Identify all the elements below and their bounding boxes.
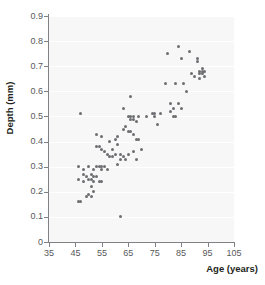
data-point: [100, 168, 103, 171]
data-point: [119, 158, 122, 161]
data-point: [114, 153, 117, 156]
gridline: [49, 66, 234, 67]
data-point: [137, 115, 140, 118]
x-tick-label: 95: [196, 249, 220, 258]
x-tick-mark: [155, 243, 156, 247]
y-tick-label: 0.3: [13, 162, 43, 171]
data-point: [198, 77, 201, 80]
data-point: [92, 190, 95, 193]
x-tick-mark: [208, 243, 209, 247]
data-point: [159, 112, 162, 115]
data-point: [177, 45, 180, 48]
data-point: [140, 148, 143, 151]
data-point: [82, 168, 85, 171]
data-point: [127, 153, 130, 156]
data-point: [100, 135, 103, 138]
y-tick-mark: [44, 167, 48, 168]
data-point: [90, 185, 93, 188]
x-tick-mark: [75, 243, 76, 247]
data-point: [203, 70, 206, 73]
y-tick-mark: [44, 91, 48, 92]
x-tick-mark: [181, 243, 182, 247]
data-point: [193, 75, 196, 78]
data-point: [100, 180, 103, 183]
data-point: [77, 165, 80, 168]
y-tick-mark: [44, 217, 48, 218]
y-tick-mark: [44, 192, 48, 193]
y-tick-mark: [44, 16, 48, 17]
x-tick-mark: [234, 243, 235, 247]
y-tick-label: 0.6: [13, 87, 43, 96]
data-point: [166, 52, 169, 55]
data-point: [135, 158, 138, 161]
data-point: [87, 165, 90, 168]
gridline: [49, 16, 234, 17]
gridline: [49, 142, 234, 143]
y-axis-line: [48, 14, 49, 243]
data-point: [164, 82, 167, 85]
data-point: [180, 107, 183, 110]
y-tick-mark: [44, 142, 48, 143]
scatter-plot-figure: Depth (mm) 00.10.20.30.40.50.60.70.80.93…: [0, 0, 265, 285]
x-tick-label: 75: [143, 249, 167, 258]
y-tick-label: 0.5: [13, 112, 43, 121]
data-point: [135, 120, 138, 123]
data-point: [108, 140, 111, 143]
data-point: [119, 215, 122, 218]
x-tick-label: 55: [90, 249, 114, 258]
data-point: [137, 138, 140, 141]
data-point: [153, 115, 156, 118]
y-tick-label: 0.8: [13, 37, 43, 46]
data-point: [116, 163, 119, 166]
gridline: [49, 41, 234, 42]
x-axis-title: Age (years): [0, 263, 258, 274]
data-point: [122, 107, 125, 110]
data-point: [77, 178, 80, 181]
x-tick-mark: [102, 243, 103, 247]
data-point: [188, 50, 191, 53]
data-point: [174, 82, 177, 85]
y-tick-label: 0.2: [13, 187, 43, 196]
gridline: [49, 192, 234, 193]
data-point: [182, 82, 185, 85]
y-tick-mark: [44, 242, 48, 243]
x-tick-mark: [49, 243, 50, 247]
x-tick-label: 85: [169, 249, 193, 258]
data-point: [169, 102, 172, 105]
x-tick-label: 65: [116, 249, 140, 258]
y-tick-label: 0.4: [13, 137, 43, 146]
data-point: [79, 112, 82, 115]
data-point: [156, 123, 159, 126]
y-tick-mark: [44, 116, 48, 117]
y-tick-label: 0: [13, 238, 43, 247]
data-point: [116, 135, 119, 138]
data-point: [185, 90, 188, 93]
gridline: [49, 116, 234, 117]
data-point: [82, 180, 85, 183]
y-tick-label: 0.7: [13, 62, 43, 71]
x-tick-mark: [128, 243, 129, 247]
y-tick-mark: [44, 41, 48, 42]
data-point: [92, 168, 95, 171]
data-point: [79, 200, 82, 203]
x-tick-label: 45: [63, 249, 87, 258]
data-point: [95, 133, 98, 136]
data-point: [116, 143, 119, 146]
data-point: [172, 107, 175, 110]
data-point: [124, 125, 127, 128]
x-tick-label: 105: [222, 249, 246, 258]
data-point: [169, 110, 172, 113]
y-tick-label: 0.1: [13, 212, 43, 221]
data-point: [180, 57, 183, 60]
data-point: [177, 102, 180, 105]
x-tick-label: 35: [37, 249, 61, 258]
gridline: [49, 217, 234, 218]
data-point: [203, 75, 206, 78]
gridline: [49, 91, 234, 92]
data-point: [124, 158, 127, 161]
data-point: [129, 95, 132, 98]
plot-area: [49, 16, 234, 242]
data-point: [106, 168, 109, 171]
data-point: [122, 128, 125, 131]
data-point: [174, 115, 177, 118]
